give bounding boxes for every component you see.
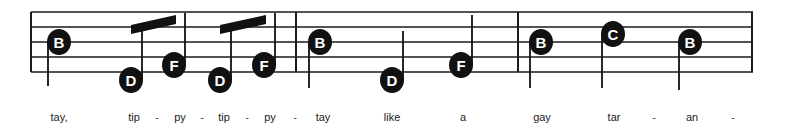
lyric-hyphen: -: [731, 111, 735, 123]
lyric-syllable: py: [174, 111, 186, 123]
lyrics-row: tay,tip-py-tip-py-taylikeagaytar-an-: [0, 0, 789, 137]
lyric-syllable: like: [384, 111, 401, 123]
lyric-hyphen: -: [293, 111, 297, 123]
lyric-syllable: tip: [128, 111, 140, 123]
lyric-hyphen: -: [245, 111, 249, 123]
lyric-syllable: tip: [218, 111, 230, 123]
lyric-syllable: an: [686, 111, 698, 123]
lyric-syllable: gay: [533, 111, 551, 123]
lyric-syllable: tay: [316, 111, 331, 123]
lyric-syllable: tay,: [51, 111, 68, 123]
lyric-hyphen: -: [652, 111, 656, 123]
lyric-hyphen: -: [200, 111, 204, 123]
lyric-syllable: tar: [608, 111, 621, 123]
lyric-hyphen: -: [155, 111, 159, 123]
lyric-syllable: py: [264, 111, 276, 123]
lyric-syllable: a: [460, 111, 466, 123]
